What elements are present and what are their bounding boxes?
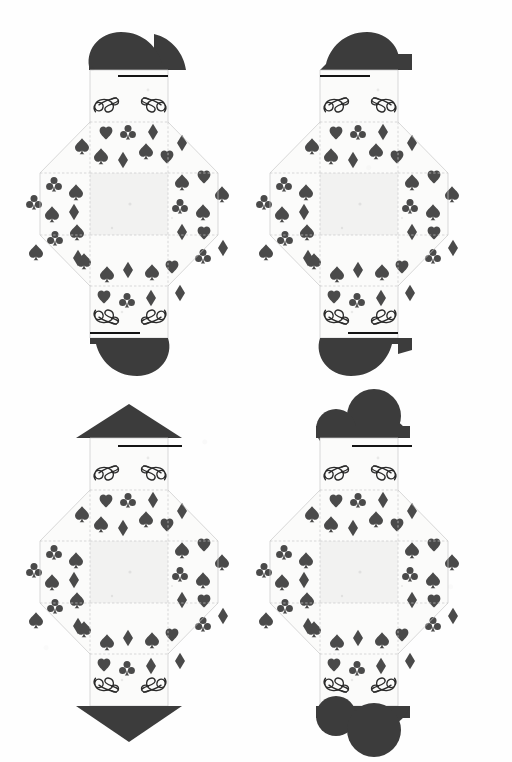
net-1-top-flap[interactable] (89, 32, 186, 70)
template-sheet (0, 0, 512, 762)
envelope-net-1[interactable] (22, 18, 260, 390)
net-2-top-flap[interactable] (320, 32, 412, 70)
net-1-drawing (22, 18, 260, 390)
net-4-drawing (252, 386, 490, 758)
net-2-bottom-flap[interactable] (319, 338, 412, 376)
net-3-bottom-flap[interactable] (76, 706, 182, 742)
envelope-net-4[interactable] (252, 386, 490, 758)
envelope-net-3[interactable] (22, 386, 260, 758)
net-3-drawing (22, 386, 260, 758)
net-1-bottom-flap[interactable] (90, 338, 169, 376)
net-2-drawing (252, 18, 490, 390)
envelope-net-2[interactable] (252, 18, 490, 390)
net-3-top-flap[interactable] (76, 404, 182, 438)
